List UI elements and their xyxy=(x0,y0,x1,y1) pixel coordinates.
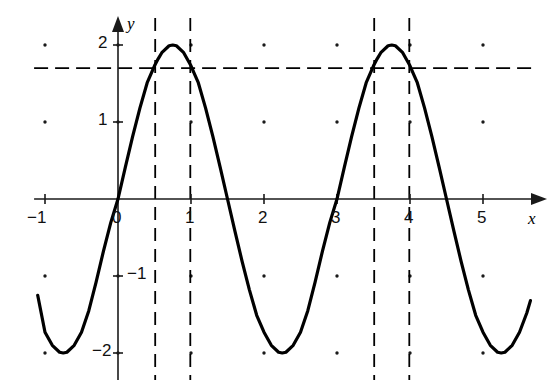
grid-dot xyxy=(43,351,46,354)
grid-dot xyxy=(335,120,338,123)
x-axis-arrowhead xyxy=(531,193,547,205)
grid-dot xyxy=(335,43,338,46)
grid-dot xyxy=(262,43,265,46)
grid-dot xyxy=(262,120,265,123)
x-axis-label: x xyxy=(528,209,536,229)
x-tick-label-4: 4 xyxy=(404,208,413,228)
y-axis-arrowhead xyxy=(112,16,124,32)
axes xyxy=(34,16,547,380)
grid-dot xyxy=(43,43,46,46)
x-tick-label-5: 5 xyxy=(477,208,486,228)
y-tick-label--2: −2 xyxy=(92,341,111,361)
grid-dot xyxy=(262,274,265,277)
grid-dot xyxy=(481,43,484,46)
x-tick-label-0: 0 xyxy=(112,208,121,228)
x-tick-label--1: −1 xyxy=(27,208,46,228)
grid-dot xyxy=(43,274,46,277)
grid-dot xyxy=(262,351,265,354)
y-tick-label-1: 1 xyxy=(98,110,107,130)
graph-figure: −101234521−1−2xy xyxy=(0,0,560,389)
grid-dot xyxy=(481,120,484,123)
grid-dot xyxy=(481,351,484,354)
x-tick-label-3: 3 xyxy=(331,208,340,228)
grid-dot xyxy=(481,274,484,277)
x-tick-label-2: 2 xyxy=(258,208,267,228)
x-tick-label-1: 1 xyxy=(185,208,194,228)
y-axis-label: y xyxy=(127,14,135,34)
grid-dot xyxy=(43,120,46,123)
y-tick-label--1: −1 xyxy=(127,264,146,284)
y-tick-label-2: 2 xyxy=(98,33,107,53)
grid-dot xyxy=(335,274,338,277)
grid-dot xyxy=(335,351,338,354)
plot-canvas xyxy=(0,0,560,389)
